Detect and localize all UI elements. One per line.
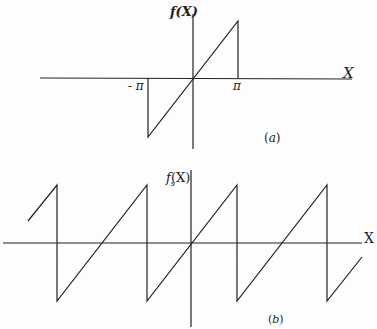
b-y-axis-label: fs(X) — [166, 171, 190, 188]
b-y-label-arg: (X) — [171, 170, 190, 185]
a-x-axis-label: X — [343, 66, 354, 81]
a-y-axis-label: f(X) — [170, 5, 198, 18]
figure: f(X) X - π π (a) fs(X) X (b) — [0, 0, 377, 329]
b-x-axis-label: X — [364, 231, 374, 245]
a-x-axis — [40, 78, 352, 79]
a-tick-neg-pi: - π — [128, 80, 144, 92]
a-y-label-text: f(X) — [170, 4, 198, 19]
a-tick-pi: π — [233, 80, 241, 92]
b-caption: (b) — [268, 314, 284, 325]
plots-svg — [0, 0, 377, 329]
a-caption: (a) — [264, 132, 281, 144]
